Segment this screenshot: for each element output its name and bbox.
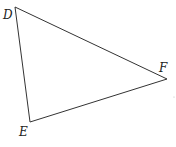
vertex-label-e: E [19, 126, 28, 138]
vertex-label-f: F [159, 62, 167, 74]
vertex-label-d: D [3, 9, 13, 21]
triangle-diagram: D F E [0, 0, 176, 147]
